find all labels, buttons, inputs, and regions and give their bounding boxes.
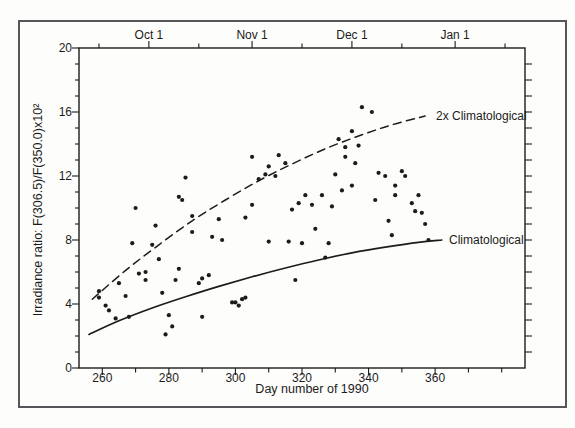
data-point	[143, 270, 147, 274]
data-point	[220, 238, 224, 242]
data-point	[293, 278, 297, 282]
data-point	[300, 241, 304, 245]
data-point	[250, 155, 254, 159]
data-point	[426, 238, 430, 242]
data-point	[190, 230, 194, 234]
data-point	[104, 304, 108, 308]
data-point	[243, 216, 247, 220]
data-point	[310, 203, 314, 207]
data-point	[207, 273, 211, 277]
y-axis-title: Irradiance ratio: F(306.5)/F(350.0)x10²	[32, 104, 45, 317]
data-point	[257, 177, 261, 181]
data-point	[350, 184, 354, 188]
x-tick-label: 360	[425, 372, 445, 384]
data-point	[237, 304, 241, 308]
data-point	[343, 145, 347, 149]
data-point	[413, 209, 417, 213]
data-point	[330, 204, 334, 208]
data-point	[290, 208, 294, 212]
data-point	[373, 198, 377, 202]
data-point	[333, 172, 337, 176]
data-point	[267, 240, 271, 244]
data-point	[177, 195, 181, 199]
data-point	[400, 169, 404, 173]
data-point	[356, 144, 360, 148]
x-tick-label: 320	[292, 372, 312, 384]
data-point	[210, 235, 214, 239]
data-point	[180, 198, 184, 202]
data-point	[370, 110, 374, 114]
data-point	[183, 176, 187, 180]
data-point	[97, 296, 101, 300]
data-point	[267, 164, 271, 168]
data-point	[393, 184, 397, 188]
data-point	[350, 129, 354, 133]
data-point	[160, 291, 164, 295]
data-point	[197, 281, 201, 285]
data-point	[163, 332, 167, 336]
data-point	[376, 171, 380, 175]
x-tick-label: 280	[159, 372, 179, 384]
top-tick-label: Jan 1	[440, 29, 469, 41]
data-point	[114, 316, 118, 320]
top-tick-label: Oct 1	[135, 29, 164, 41]
data-point	[416, 193, 420, 197]
2x-climatological-curve	[92, 116, 425, 299]
data-point	[143, 278, 147, 282]
data-point	[283, 161, 287, 165]
data-point	[343, 155, 347, 159]
data-point	[200, 315, 204, 319]
data-point	[340, 188, 344, 192]
data-point	[313, 227, 317, 231]
data-point	[107, 308, 111, 312]
x-axis-title: Day number of 1990	[255, 383, 368, 396]
data-point	[173, 278, 177, 282]
data-point	[170, 324, 174, 328]
top-tick-label: Nov 1	[236, 29, 267, 41]
y-tick-label: 20	[59, 42, 72, 54]
figure: Irradiance ratio: F(306.5)/F(350.0)x10² …	[0, 0, 575, 428]
data-point	[200, 276, 204, 280]
data-point	[320, 193, 324, 197]
data-point	[383, 174, 387, 178]
scatter-plot	[0, 0, 575, 428]
data-point	[410, 201, 414, 205]
data-point	[130, 241, 134, 245]
data-point	[323, 256, 327, 260]
data-point	[390, 233, 394, 237]
y-tick-label: 16	[59, 106, 72, 118]
x-tick-label: 260	[92, 372, 112, 384]
x-tick-label: 340	[359, 372, 379, 384]
x-tick-label: 300	[225, 372, 245, 384]
y-tick-label: 8	[65, 234, 72, 246]
data-point	[337, 137, 341, 141]
data-point	[150, 243, 154, 247]
data-point	[423, 222, 427, 226]
plot-frame	[79, 48, 525, 368]
data-point	[97, 289, 101, 293]
data-point	[420, 211, 424, 215]
data-point	[297, 201, 301, 205]
data-point	[167, 313, 171, 317]
data-point	[157, 257, 161, 261]
data-point	[250, 203, 254, 207]
data-point	[190, 214, 194, 218]
data-point	[177, 267, 181, 271]
data-point	[133, 206, 137, 210]
y-tick-label: 12	[59, 170, 72, 182]
data-point	[287, 240, 291, 244]
data-point	[327, 241, 331, 245]
data-point	[137, 272, 141, 276]
data-point	[393, 193, 397, 197]
data-point	[233, 300, 237, 304]
data-point	[277, 153, 281, 157]
data-point	[117, 281, 121, 285]
data-point	[273, 174, 277, 178]
data-point	[127, 315, 131, 319]
data-point	[360, 105, 364, 109]
solid-curve-label: Climatological	[449, 234, 524, 246]
data-point	[353, 161, 357, 165]
dashed-curve-label: 2x Climatological	[436, 110, 527, 122]
climatological-curve	[89, 240, 442, 334]
y-tick-label: 4	[65, 298, 72, 310]
